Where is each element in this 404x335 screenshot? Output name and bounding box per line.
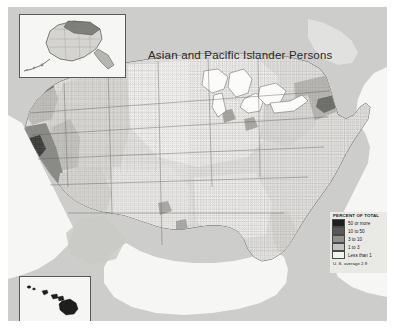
legend-label: 3 to 10 (345, 236, 362, 243)
legend-swatch-10-to-50 (332, 227, 345, 234)
map-figure: Asian and Pacific Islander Persons (0, 0, 404, 335)
legend-row: 3 to 10 (332, 235, 387, 243)
alaska-inset (19, 14, 126, 78)
legend-swatch-less-than-1 (332, 251, 345, 258)
legend-label: 10 to 50 (345, 228, 365, 235)
legend-swatch-50-or-more (332, 219, 345, 226)
page-title: Asian and Pacific Islander Persons (148, 49, 368, 61)
map-plate: Asian and Pacific Islander Persons (8, 7, 387, 321)
map-legend: PERCENT OF TOTAL 50 or more 10 to 50 3 t… (330, 212, 387, 273)
legend-swatch-3-to-10 (332, 235, 345, 242)
legend-row: 10 to 50 (332, 227, 387, 235)
legend-row: 1 to 3 (332, 243, 387, 251)
legend-row: Less than 1 (332, 251, 387, 259)
legend-label: 50 or more (345, 220, 370, 227)
legend-label: 1 to 3 (345, 244, 360, 251)
hawaii-inset (19, 276, 91, 321)
legend-title: PERCENT OF TOTAL (332, 213, 387, 219)
legend-label: Less than 1 (345, 252, 372, 259)
legend-swatch-1-to-3 (332, 243, 345, 250)
legend-national-average-note: U. S. average 2.9 (332, 260, 387, 267)
legend-row: 50 or more (332, 219, 387, 227)
